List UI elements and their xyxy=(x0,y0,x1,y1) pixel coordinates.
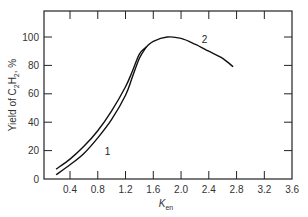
curve-2 xyxy=(56,37,233,169)
x-tick-label: 2.0 xyxy=(174,184,188,195)
y-axis-ticks: 020406080100 xyxy=(22,32,292,185)
x-tick-label: 1.6 xyxy=(146,184,160,195)
y-tick-label: 40 xyxy=(28,117,40,128)
y-tick-label: 80 xyxy=(28,60,40,71)
y-axis-title: Yield of C2H2, % xyxy=(7,59,20,132)
plot-frame xyxy=(44,11,292,179)
x-tick-label: 3.6 xyxy=(285,184,299,195)
y-tick-label: 60 xyxy=(28,88,40,99)
x-tick-label: 3.2 xyxy=(257,184,271,195)
curves xyxy=(56,37,233,175)
curve-label-2: 2 xyxy=(202,34,208,45)
x-axis-title: Ken xyxy=(159,198,174,211)
x-tick-label: 2.8 xyxy=(230,184,244,195)
x-tick-label: 0.8 xyxy=(91,184,105,195)
curve-label-1: 1 xyxy=(105,146,111,157)
chart: 0.40.81.21.62.02.42.83.23.6 020406080100… xyxy=(0,0,308,217)
curve-1 xyxy=(56,47,146,175)
y-tick-label: 0 xyxy=(33,174,39,185)
x-tick-label: 1.2 xyxy=(119,184,133,195)
x-tick-label: 0.4 xyxy=(63,184,77,195)
y-tick-label: 100 xyxy=(22,32,39,43)
x-tick-label: 2.4 xyxy=(202,184,216,195)
y-tick-label: 20 xyxy=(28,145,40,156)
